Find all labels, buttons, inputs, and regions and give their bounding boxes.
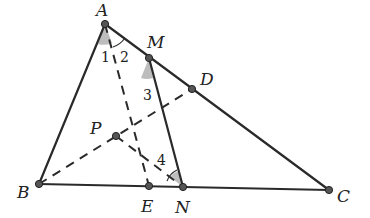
dashed-segment-PN [116,136,183,187]
point-D [188,85,195,92]
point-M [145,54,152,61]
point-P [112,132,119,139]
diagram-canvas: AMDBCENP 1234 [0,0,370,218]
angle-label-1: 1 [101,49,110,65]
point-A [101,20,108,27]
point-label-C: C [337,186,350,206]
point-label-E: E [140,196,154,216]
point-E [145,182,152,189]
segment-AC [105,24,329,190]
geometry-diagram: AMDBCENP 1234 [0,0,370,218]
point-label-M: M [146,32,165,52]
dashed-lines [39,24,192,187]
angle-label-4: 4 [157,152,166,168]
point-label-N: N [174,197,191,217]
point-label-P: P [89,118,102,138]
segment-AB [39,24,105,184]
solid-lines [39,24,329,190]
point-label-D: D [199,69,214,89]
point-B [35,180,42,187]
point-C [325,186,332,193]
point-label-A: A [94,0,108,20]
angle-2-arc [113,38,125,47]
point-N [179,183,186,190]
point-label-B: B [16,182,30,202]
points [35,20,332,193]
angle-label-3: 3 [143,87,152,103]
angle-label-2: 2 [120,49,129,65]
